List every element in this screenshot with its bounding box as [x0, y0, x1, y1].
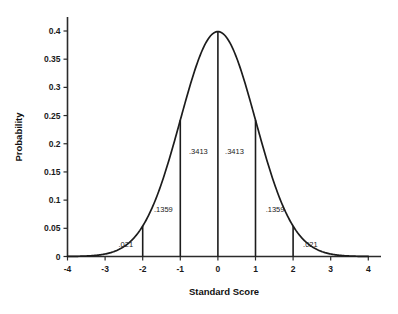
y-tick-label: 0.35	[44, 54, 61, 64]
area-neg-1-sigma: .1359	[154, 205, 173, 214]
y-tick-label: 0.3	[49, 82, 61, 92]
area-pos-1-sigma: .1359	[266, 205, 285, 214]
y-tick-label: 0.25	[44, 111, 61, 121]
area-pos-center: .3413	[225, 147, 244, 156]
x-tick-label: -2	[139, 264, 147, 274]
y-tick-label: 0.1	[49, 195, 61, 205]
y-axis-title: Probability	[13, 112, 24, 162]
plot-canvas: 00.050.10.150.20.250.30.350.4 -4-3-2-101…	[0, 0, 398, 314]
x-tick-label: 2	[291, 264, 296, 274]
x-tick-label: -3	[101, 264, 109, 274]
y-tick-label: 0.2	[49, 139, 61, 149]
area-neg-center: .3413	[189, 147, 208, 156]
y-tick-label: 0	[56, 252, 61, 262]
normal-distribution-chart: 00.050.10.150.20.250.30.350.4 -4-3-2-101…	[0, 0, 398, 314]
area-pos-2-sigma: .021	[303, 240, 318, 249]
x-tick-label: 4	[366, 264, 371, 274]
y-tick-label: 0.05	[44, 223, 61, 233]
chart-background	[0, 0, 398, 314]
x-tick-label: 3	[328, 264, 333, 274]
y-tick-label: 0.4	[49, 26, 61, 36]
area-neg-2-sigma: .021	[118, 240, 133, 249]
x-tick-label: 1	[253, 264, 258, 274]
x-tick-label: -4	[64, 264, 72, 274]
x-tick-label: 0	[216, 264, 221, 274]
x-tick-label: -1	[177, 264, 185, 274]
y-tick-label: 0.15	[44, 167, 61, 177]
x-axis-title: Standard Score	[189, 286, 259, 297]
